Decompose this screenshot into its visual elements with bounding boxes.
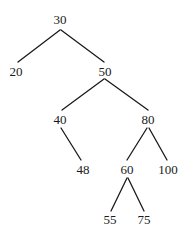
- node-50: 50: [99, 64, 112, 79]
- node-60: 60: [121, 162, 134, 177]
- tree-nodes: 302050408048601005575: [10, 12, 178, 227]
- edge-30-20: [18, 30, 60, 62]
- edge-80-100: [149, 128, 167, 160]
- node-80: 80: [142, 112, 155, 127]
- edge-50-40: [62, 79, 104, 110]
- node-55: 55: [104, 212, 117, 227]
- node-100: 100: [158, 162, 178, 177]
- node-48: 48: [77, 162, 90, 177]
- edge-80-60: [127, 128, 147, 160]
- edge-40-48: [61, 128, 81, 160]
- node-30: 30: [54, 12, 67, 27]
- node-75: 75: [138, 212, 151, 227]
- edge-50-80: [105, 79, 148, 110]
- edge-60-75: [128, 178, 144, 211]
- node-20: 20: [10, 64, 23, 79]
- edge-30-50: [61, 30, 104, 62]
- tree-diagram: 302050408048601005575: [0, 0, 184, 234]
- node-40: 40: [54, 112, 67, 127]
- edge-60-55: [111, 178, 127, 211]
